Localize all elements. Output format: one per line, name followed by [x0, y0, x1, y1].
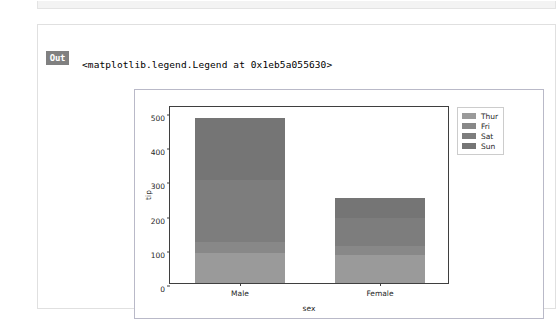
legend-repr-text: <matplotlib.legend.Legend at 0x1eb5a0556… — [82, 59, 332, 70]
y-tick-mark — [167, 286, 170, 287]
output-cell: Out <matplotlib.legend.Legend at 0x1eb5a… — [37, 24, 556, 309]
legend-item-thur: Thur — [462, 111, 498, 121]
legend-swatch-icon — [462, 143, 476, 149]
x-tick-label: Male — [231, 289, 249, 298]
bar-segment-sat — [335, 218, 425, 246]
legend-item-sat: Sat — [462, 131, 498, 141]
legend-label: Fri — [481, 122, 490, 131]
legend-swatch-icon — [462, 123, 476, 129]
y-tick-mark — [167, 149, 170, 150]
bar-female — [335, 198, 425, 283]
bar-segment-fri — [335, 246, 425, 255]
bar-segment-sat — [195, 180, 285, 242]
y-tick-mark — [167, 114, 170, 115]
legend-label: Sun — [481, 142, 495, 151]
bar-segment-sun — [335, 198, 425, 218]
plot-area — [170, 107, 448, 283]
matplotlib-figure: 0100200300400500 MaleFemale tip sex Thur… — [134, 89, 544, 319]
legend-swatch-icon — [462, 133, 476, 139]
x-tick-label: Female — [366, 289, 393, 298]
x-tick-mark — [240, 283, 241, 286]
bar-segment-sun — [195, 118, 285, 181]
legend-item-fri: Fri — [462, 121, 498, 131]
legend-label: Sat — [481, 132, 493, 141]
x-tick-mark — [380, 283, 381, 286]
bar-male — [195, 118, 285, 283]
legend-item-sun: Sun — [462, 141, 498, 151]
plot-axes: 0100200300400500 MaleFemale tip sex — [169, 106, 449, 284]
legend-label: Thur — [481, 112, 498, 121]
chart-legend: ThurFriSatSun — [457, 107, 504, 155]
y-tick-mark — [167, 251, 170, 252]
notebook-output-screenshot: Out <matplotlib.legend.Legend at 0x1eb5a… — [0, 0, 558, 325]
previous-cell-strip — [37, 1, 556, 9]
y-tick-mark — [167, 183, 170, 184]
y-tick-mark — [167, 217, 170, 218]
x-axis-label: sex — [303, 304, 316, 313]
y-axis-label: tip — [144, 190, 153, 200]
output-prompt-label: Out — [46, 51, 69, 65]
legend-swatch-icon — [462, 113, 476, 119]
bar-segment-thur — [335, 255, 425, 283]
bar-segment-fri — [195, 242, 285, 252]
bar-segment-thur — [195, 253, 285, 283]
